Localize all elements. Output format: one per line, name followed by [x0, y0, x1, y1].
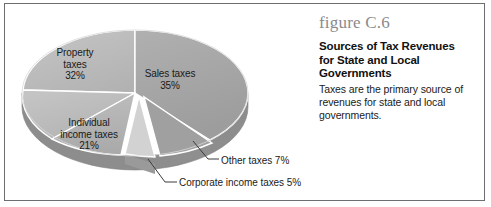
caption-title-line2: for State and Local: [319, 54, 484, 68]
pie-label-individual-income-taxes-line1: Individual: [39, 117, 139, 129]
pie-label-individual-income-taxes-line2: income taxes: [39, 129, 139, 141]
pie-callout-other-taxes: Other taxes 7%: [221, 155, 289, 166]
caption-title-line3: Governments: [319, 67, 484, 81]
caption-title: Sources of Tax Revenues for State and Lo…: [319, 40, 484, 81]
pie-label-individual-income-taxes: Individual income taxes 21%: [39, 117, 139, 152]
pie-chart-graphic: [5, 4, 310, 200]
pie-label-sales-taxes-line1: Sales taxes: [128, 68, 212, 80]
pie-label-sales-taxes-value: 35%: [128, 80, 212, 92]
pie-label-property-taxes-value: 32%: [35, 70, 115, 82]
pie-chart: Property taxes 32% Sales taxes 35% Indiv…: [5, 4, 310, 200]
pie-label-property-taxes: Property taxes 32%: [35, 47, 115, 82]
pie-label-property-taxes-line2: taxes: [35, 59, 115, 71]
pie-callout-corporate-income-taxes: Corporate income taxes 5%: [179, 177, 301, 188]
pie-label-sales-taxes: Sales taxes 35%: [128, 68, 212, 91]
figure-number: figure C.6: [319, 13, 390, 33]
caption-title-line1: Sources of Tax Revenues: [319, 40, 484, 54]
pie-label-individual-income-taxes-value: 21%: [39, 140, 139, 152]
pie-label-property-taxes-line1: Property: [35, 47, 115, 59]
caption-panel: figure C.6 Sources of Tax Revenues for S…: [317, 4, 484, 200]
caption-body: Taxes are the primary source of revenues…: [319, 83, 484, 123]
figure-frame: Property taxes 32% Sales taxes 35% Indiv…: [4, 3, 485, 201]
